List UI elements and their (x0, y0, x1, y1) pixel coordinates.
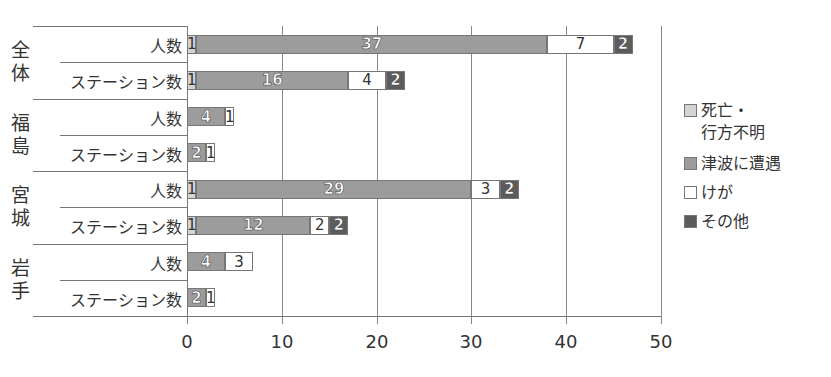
bar-segment: 4 (187, 252, 225, 271)
legend-swatch-other (684, 215, 697, 228)
group-label: 福島 (8, 112, 32, 158)
row-label: ステーション数 (70, 214, 182, 238)
bar-segment: 4 (348, 71, 386, 90)
bar-segment: 7 (547, 35, 613, 54)
bar-segment: 1 (225, 107, 234, 126)
bar-segment: 1 (187, 35, 196, 54)
group-label: 宮城 (8, 184, 32, 230)
row-label: ステーション数 (70, 69, 182, 93)
group-separator (33, 26, 187, 27)
bar-segment: 1 (187, 180, 196, 199)
legend-swatch-injury (684, 186, 697, 199)
gridline (566, 26, 567, 324)
row-separator (60, 280, 187, 281)
bar-segment: 2 (500, 180, 519, 199)
legend-swatch-death-missing (684, 104, 697, 117)
row-label: 人数 (150, 33, 182, 57)
bar-segment: 2 (187, 143, 206, 162)
x-tick-label: 30 (460, 331, 483, 352)
x-axis-line (33, 316, 661, 317)
row-separator (60, 135, 187, 136)
legend-item-other: その他 (684, 211, 749, 233)
x-tick-label: 40 (555, 331, 578, 352)
bar-segment: 3 (471, 180, 499, 199)
row-separator (60, 62, 187, 63)
bar-segment: 1 (206, 143, 215, 162)
bar-segment: 1 (187, 216, 196, 235)
bar-segment: 2 (310, 216, 329, 235)
gridline (471, 26, 472, 324)
y-axis-line (187, 26, 188, 316)
legend-label: その他 (701, 211, 749, 233)
group-separator (33, 244, 187, 245)
legend-item-injury: けが (684, 182, 733, 204)
bar-segment: 29 (196, 180, 471, 199)
x-tick-label: 20 (366, 331, 389, 352)
group-separator (33, 99, 187, 100)
row-label: 人数 (150, 106, 182, 130)
legend-item-tsunami: 津波に遭遇 (684, 153, 781, 175)
group-separator (33, 171, 187, 172)
bar-segment: 2 (329, 216, 348, 235)
legend-label-line2: 行方不明 (701, 122, 765, 144)
bar-segment: 4 (187, 107, 225, 126)
legend-swatch-tsunami (684, 157, 697, 170)
legend-label: けが (701, 182, 733, 204)
row-separator (60, 207, 187, 208)
x-tick-label: 50 (650, 331, 673, 352)
row-label: ステーション数 (70, 142, 182, 166)
row-label: ステーション数 (70, 287, 182, 311)
x-tick-label: 0 (181, 331, 192, 352)
bar-segment: 37 (196, 35, 547, 54)
bar-segment: 16 (196, 71, 348, 90)
group-label: 岩手 (8, 257, 32, 303)
bar-segment: 12 (196, 216, 310, 235)
legend-item-death-missing: 死亡・ 行方不明 (684, 100, 765, 144)
group-label: 全体 (8, 39, 32, 85)
row-label: 人数 (150, 178, 182, 202)
bar-segment: 2 (614, 35, 633, 54)
bar-segment: 1 (206, 288, 215, 307)
bar-segment: 3 (225, 252, 253, 271)
legend-label: 津波に遭遇 (701, 153, 781, 175)
bar-segment: 2 (187, 288, 206, 307)
legend-label: 死亡・ (701, 100, 765, 122)
x-tick-label: 10 (271, 331, 294, 352)
bar-segment: 1 (187, 71, 196, 90)
gridline (661, 26, 662, 324)
row-label: 人数 (150, 251, 182, 275)
bar-segment: 2 (386, 71, 405, 90)
